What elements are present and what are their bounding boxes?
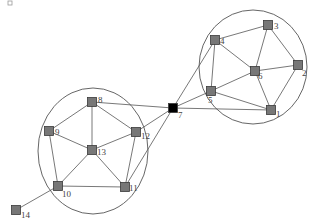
- node-label: 2: [302, 68, 307, 78]
- edge-7-11: [125, 108, 173, 187]
- node-square-icon: [132, 128, 141, 137]
- node-8: 8: [88, 95, 104, 107]
- node-square-icon: [88, 98, 97, 107]
- node-label: 4: [220, 36, 225, 46]
- node-square-icon: [45, 127, 54, 136]
- edge-3-6: [255, 25, 268, 71]
- edge-4-5: [211, 40, 215, 91]
- edge-7-12: [136, 108, 173, 132]
- node-label: 8: [98, 95, 103, 105]
- node-label: 10: [62, 189, 72, 199]
- edge-12-11: [125, 132, 136, 187]
- node-4: 4: [211, 36, 226, 47]
- edge-13-10: [58, 150, 92, 186]
- edge-10-14: [16, 186, 58, 210]
- node-7: 7: [169, 104, 184, 121]
- edge-5-1: [211, 91, 271, 110]
- corner-mark: [8, 1, 12, 5]
- edge-10-11: [58, 186, 125, 187]
- edge-7-1: [173, 108, 271, 110]
- node-label: 3: [274, 21, 279, 31]
- node-3: 3: [264, 21, 280, 32]
- node-label: 13: [97, 147, 107, 157]
- node-square-icon: [169, 104, 178, 113]
- node-label: 11: [129, 183, 138, 193]
- node-9: 9: [45, 127, 61, 138]
- node-label: 12: [141, 131, 150, 141]
- node-square-icon: [267, 106, 276, 115]
- edge-9-10: [49, 131, 58, 186]
- node-13: 13: [88, 146, 107, 158]
- node-label: 14: [21, 210, 31, 219]
- node-square-icon: [88, 146, 97, 155]
- node-1: 1: [267, 106, 281, 120]
- edge-3-2: [268, 25, 298, 65]
- network-graph: 1234567891011121314: [0, 0, 309, 219]
- node-square-icon: [264, 21, 273, 30]
- node-5: 5: [207, 87, 216, 106]
- edge-2-1: [271, 65, 298, 110]
- node-2: 2: [294, 61, 307, 79]
- edge-6-5: [211, 71, 255, 91]
- node-square-icon: [211, 36, 220, 45]
- node-label: 6: [258, 71, 263, 81]
- node-square-icon: [12, 206, 21, 215]
- edge-8-12: [92, 102, 136, 132]
- node-6: 6: [251, 67, 264, 82]
- node-10: 10: [54, 182, 72, 200]
- node-label: 9: [55, 127, 60, 137]
- node-label: 7: [178, 110, 183, 120]
- node-11: 11: [121, 183, 138, 194]
- node-layer: 1234567891011121314: [12, 21, 307, 220]
- node-label: 5: [208, 95, 213, 105]
- node-label: 1: [276, 109, 281, 119]
